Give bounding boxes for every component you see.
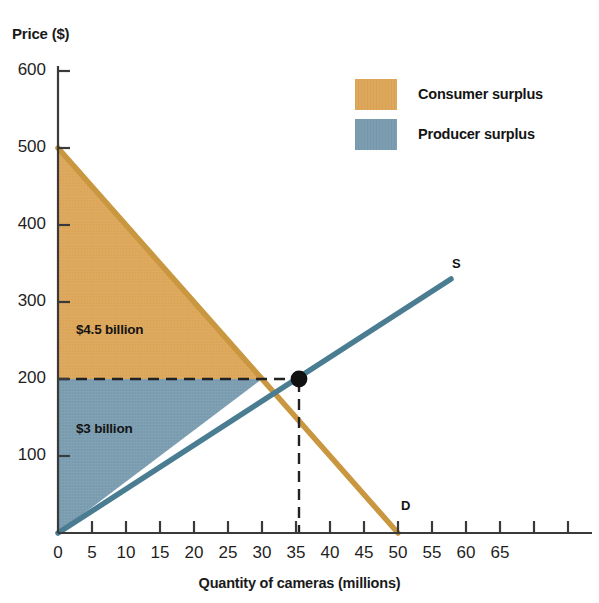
y-tick-label-600: 600 — [2, 60, 46, 80]
supply-curve-label: S — [452, 256, 461, 271]
equilibrium-point-marker — [291, 371, 308, 388]
y-tick-label-300: 300 — [2, 291, 46, 311]
legend-item-producer-surplus: Producer surplus — [355, 114, 590, 154]
legend-label-producer-surplus: Producer surplus — [418, 126, 535, 142]
y-tick-label-100: 100 — [2, 445, 46, 465]
x-axis-ticks — [92, 521, 568, 533]
producer-surplus-area — [58, 379, 262, 533]
legend-swatch-producer-surplus — [355, 119, 397, 150]
x-axis-title: Quantity of cameras (millions) — [0, 575, 599, 591]
legend: Consumer surplus Producer surplus — [355, 74, 590, 154]
demand-curve-label: D — [401, 498, 410, 513]
y-tick-label-400: 400 — [2, 214, 46, 234]
producer-surplus-value-label: $3 billion — [76, 421, 133, 436]
supply-demand-surplus-chart: Price ($) Quantity of cameras (millions)… — [0, 0, 599, 603]
x-tick-label-65: 65 — [480, 543, 520, 563]
legend-label-consumer-surplus: Consumer surplus — [418, 86, 543, 102]
legend-item-consumer-surplus: Consumer surplus — [355, 74, 590, 114]
consumer-surplus-value-label: $4.5 billion — [76, 322, 143, 337]
legend-swatch-consumer-surplus — [355, 79, 397, 110]
y-axis-title: Price ($) — [12, 25, 69, 42]
y-tick-label-500: 500 — [2, 137, 46, 157]
y-tick-label-200: 200 — [2, 368, 46, 388]
